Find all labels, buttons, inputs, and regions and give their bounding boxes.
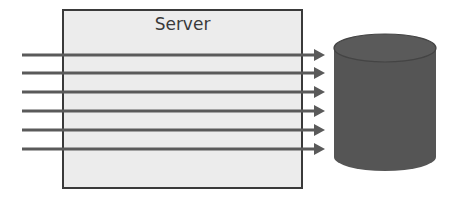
- diagram-overlay: [0, 0, 455, 200]
- arrow-icon: [22, 143, 325, 155]
- arrow-icon: [22, 105, 325, 117]
- request-arrows: [22, 49, 325, 155]
- arrow-icon: [22, 67, 325, 79]
- arrow-icon: [22, 49, 325, 61]
- arrow-icon: [22, 124, 325, 136]
- arrow-icon: [22, 86, 325, 98]
- database-cylinder-icon: [334, 34, 436, 171]
